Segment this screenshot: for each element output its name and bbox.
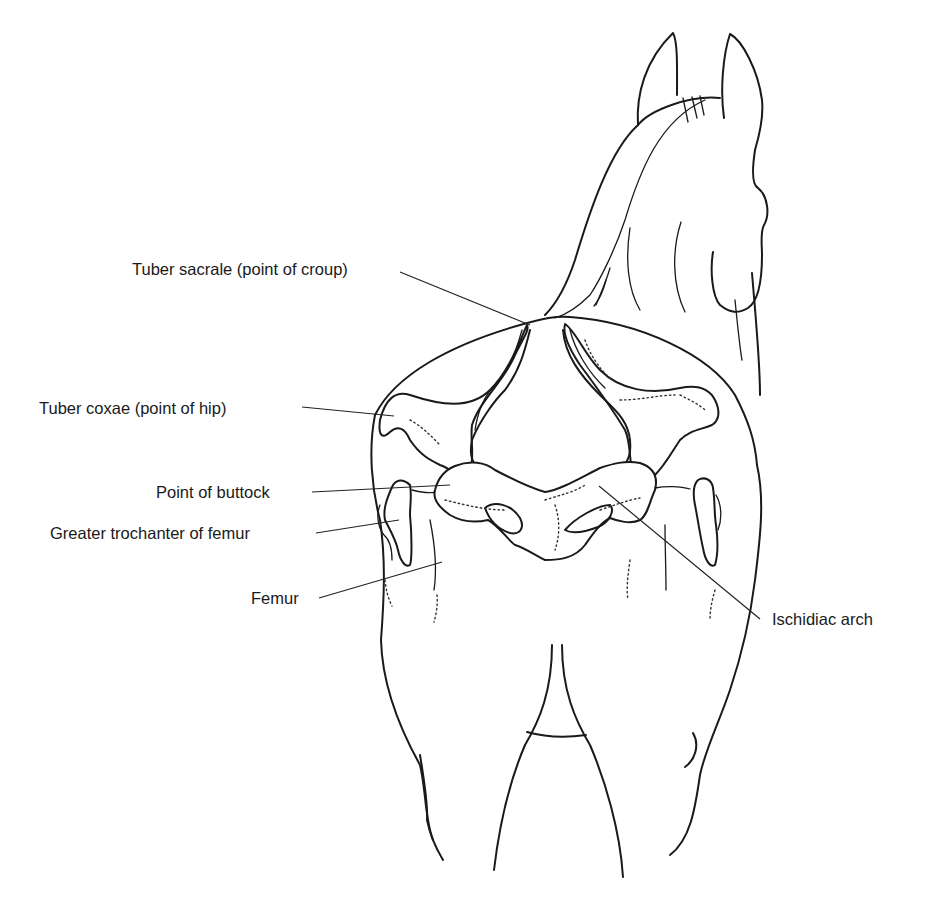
label-femur: Femur [251, 588, 299, 608]
leader-tuber-coxae [302, 407, 394, 416]
label-ischidiac-arch: Ischidiac arch [772, 609, 873, 629]
label-tuber-coxae: Tuber coxae (point of hip) [39, 398, 226, 418]
label-tuber-sacrale: Tuber sacrale (point of croup) [132, 259, 348, 279]
label-greater-trochanter: Greater trochanter of femur [50, 523, 250, 543]
label-point-of-buttock: Point of buttock [156, 482, 270, 502]
leader-ischidiac-arch [599, 486, 760, 619]
leader-femur [319, 562, 442, 598]
leader-point-of-buttock [312, 485, 450, 492]
leader-greater-trochanter [316, 520, 399, 533]
horse-pelvis-diagram [0, 0, 934, 909]
leader-tuber-sacrale [400, 272, 530, 325]
